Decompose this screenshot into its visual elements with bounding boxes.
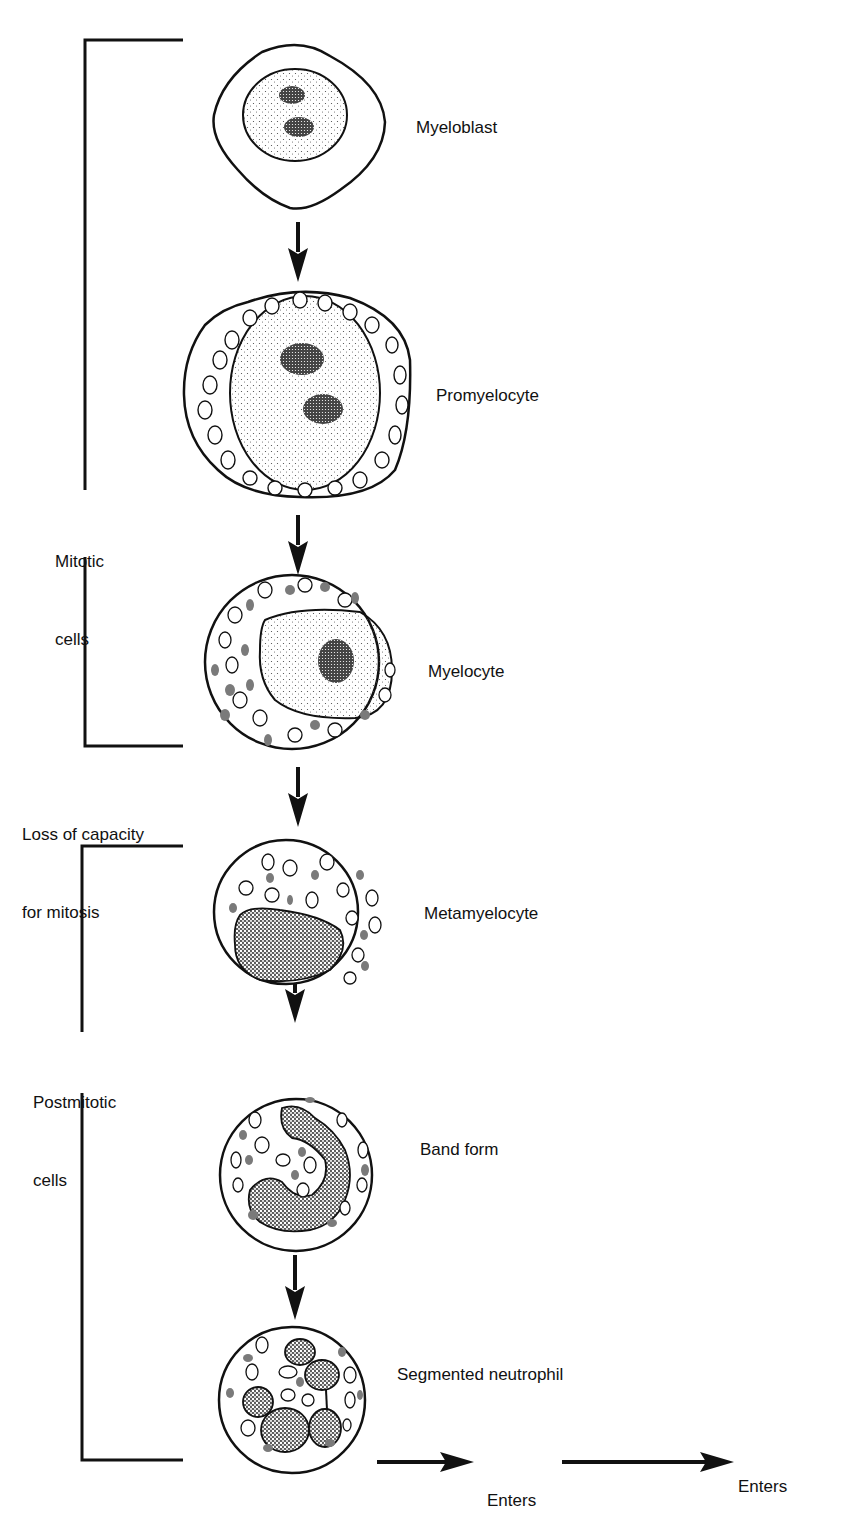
stage-label-myelocyte: Myelocyte [428,659,505,685]
stage-label-promyelocyte: Promyelocyte [436,383,539,409]
arrow-right-icon [377,1452,474,1472]
promyelocyte-cell-icon [184,292,410,497]
postmitotic-cells-label: Postmitotic cells [33,1038,116,1220]
myeloblast-cell-icon [214,45,386,209]
mitotic-cells-label: Mitotic cells [55,497,104,679]
arrow-down-icon [288,222,308,282]
stage-label-band-form: Band form [420,1137,498,1163]
arrow-down-icon [288,515,308,575]
arrow-down-icon [285,1255,305,1320]
arrow-down-icon [288,767,308,827]
metamyelocyte-cell-icon [214,840,381,984]
enters-blood-label: Enters blood [487,1436,536,1520]
segmented-neutrophil-cell-icon [219,1327,365,1473]
stage-label-myeloblast: Myeloblast [416,115,497,141]
stage-label-segmented-neutrophil: Segmented neutrophil [397,1362,563,1388]
stage-label-metamyelocyte: Metamyelocyte [424,901,538,927]
loss-of-mitosis-label: Loss of capacity for mitosis [22,770,144,952]
band-form-cell-icon [220,1097,372,1251]
myelocyte-cell-icon [205,575,395,749]
enters-tissues-label: Enters tissues (1–2 days) [738,1422,818,1520]
arrow-right-icon [562,1452,734,1472]
maturation-diagram [0,0,859,1520]
